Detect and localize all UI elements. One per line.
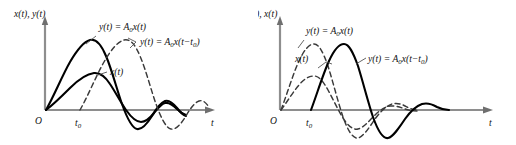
- left-equation-scaled-label: y(t) = A0x(t): [98, 21, 146, 33]
- left-curve-scaled-yt: [46, 40, 186, 129]
- right-vertical-axis-label: y(t), x(t): [258, 8, 277, 20]
- left-horizontal-axis-label: t: [211, 117, 214, 128]
- left-tick-label-t0: t0: [75, 117, 82, 129]
- left-origin-label: O: [35, 115, 42, 126]
- right-curve-input-xt: [281, 76, 417, 129]
- left-curve-input-xt: [46, 73, 186, 122]
- left-input-signal-label: x(t): [109, 66, 123, 78]
- right-leader-input: [318, 62, 326, 68]
- left-vertical-axis-label: x(t), y(t): [13, 8, 45, 20]
- left-curve-delayed-yt: [80, 40, 209, 129]
- right-tick-label-t0: t0: [306, 117, 313, 129]
- right-horizontal-axis-arrowhead: [483, 107, 493, 114]
- right-equation-scaled-label: y(t) = A0x(t): [305, 25, 353, 37]
- left-horizontal-axis-arrowhead: [205, 107, 215, 114]
- panel-left: x(t), y(t) y(t) = A0x(t) y(t) = A0x(t−t0…: [0, 0, 258, 145]
- left-equation-delayed-label: y(t) = A0x(t−t0): [139, 36, 200, 48]
- figure-root: x(t), y(t) y(t) = A0x(t) y(t) = A0x(t−t0…: [0, 0, 516, 145]
- right-leader-delayed: [356, 58, 366, 64]
- right-origin-label: O: [270, 115, 277, 126]
- right-equation-delayed-label: y(t) = A0x(t−t0): [367, 53, 428, 65]
- right-vertical-axis-arrowhead: [277, 16, 283, 25]
- panel-right: y(t), x(t) y(t) = A0x(t) y(t) = A0x(t−t0…: [258, 0, 516, 145]
- right-leader-scaled: [298, 40, 304, 48]
- right-horizontal-axis-label: t: [489, 117, 492, 128]
- right-input-signal-label: x(t): [294, 53, 308, 65]
